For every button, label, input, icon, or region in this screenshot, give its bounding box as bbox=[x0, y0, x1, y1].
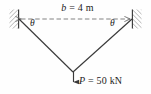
load-force-label: P = 50 kN bbox=[79, 76, 122, 86]
diagram-canvas bbox=[0, 0, 151, 94]
load-value: 50 kN bbox=[97, 75, 123, 86]
span-dimension-label: b = 4 m bbox=[55, 3, 100, 13]
right-cable-member bbox=[73, 19, 132, 72]
angle-label-left: θ bbox=[30, 19, 35, 29]
right-support-wall bbox=[132, 10, 141, 29]
span-equals: = bbox=[67, 2, 78, 13]
load-equals: = bbox=[85, 75, 96, 86]
theta-symbol-right: θ bbox=[110, 18, 115, 28]
free-body-diagram: b = 4 m θ θ P = 50 kN bbox=[0, 0, 151, 94]
left-support-wall bbox=[10, 10, 19, 29]
span-value: 4 m bbox=[78, 2, 94, 13]
angle-label-right: θ bbox=[110, 19, 115, 29]
theta-symbol-left: θ bbox=[30, 18, 35, 28]
left-cable-member bbox=[19, 19, 73, 72]
